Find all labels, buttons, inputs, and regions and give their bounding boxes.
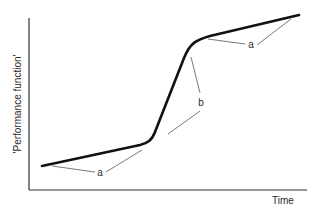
annotation-a-high: a	[248, 39, 254, 50]
annotation-b: b	[198, 97, 204, 108]
y-axis-label: 'Performance function'	[12, 54, 23, 153]
leader-line-a-low-left	[52, 166, 95, 172]
leader-line-b-lower	[168, 111, 200, 134]
leader-line-a-high-left	[208, 39, 245, 44]
leader-line-a-low-right	[106, 150, 142, 172]
x-axis-label: Time	[272, 195, 294, 206]
performance-curve	[42, 15, 299, 166]
annotation-a-low: a	[97, 167, 103, 178]
leader-line-b-upper	[191, 57, 200, 93]
performance-curve-figure: a b a 'Performance function' Time	[0, 0, 321, 213]
chart-canvas: a b a 'Performance function' Time	[0, 0, 321, 213]
